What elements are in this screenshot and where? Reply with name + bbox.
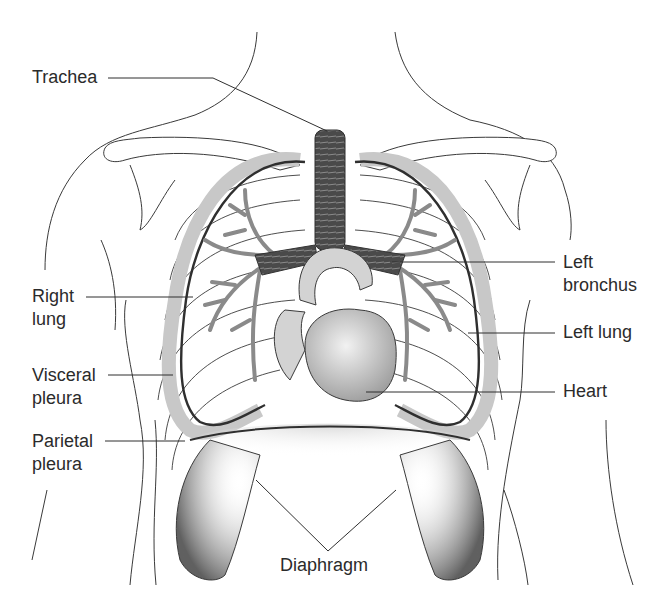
label-left-bronchus-line1: Left (563, 251, 637, 274)
label-parietal-pleura: Parietal pleura (32, 430, 93, 476)
illustration (0, 0, 668, 606)
leader-line-trachea (108, 78, 327, 131)
label-left-lung-text: Left lung (563, 321, 632, 344)
leader-line-diaphragm (256, 480, 396, 551)
body-outline (32, 32, 633, 585)
label-left-bronchus-line2: bronchus (563, 274, 637, 297)
label-right-lung-line1: Right (32, 285, 74, 308)
label-heart: Heart (563, 380, 607, 403)
label-trachea-text: Trachea (32, 66, 97, 89)
label-right-lung: Right lung (32, 285, 74, 331)
label-diaphragm: Diaphragm (280, 554, 368, 577)
label-diaphragm-text: Diaphragm (280, 554, 368, 577)
trachea (315, 130, 345, 250)
label-left-lung: Left lung (563, 321, 632, 344)
label-parietal-pleura-line1: Parietal (32, 430, 93, 453)
thorax-anatomy-diagram: Trachea Right lung Visceral pleura Parie… (0, 0, 668, 606)
label-visceral-pleura: Visceral pleura (32, 364, 96, 410)
label-visceral-pleura-line1: Visceral (32, 364, 96, 387)
label-visceral-pleura-line2: pleura (32, 387, 96, 410)
label-heart-text: Heart (563, 380, 607, 403)
label-right-lung-line2: lung (32, 308, 74, 331)
heart (305, 309, 396, 401)
label-trachea: Trachea (32, 66, 97, 89)
label-left-bronchus: Left bronchus (563, 251, 637, 297)
label-parietal-pleura-line2: pleura (32, 453, 93, 476)
